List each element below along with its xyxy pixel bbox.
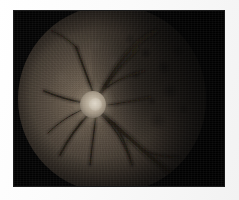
superior-fine-branch [102,71,144,91]
choroidal-mottling-texture [18,11,206,186]
temporal-fine-branch [108,97,150,105]
inferior-fine-branch [104,117,130,159]
inferior-temporal-arcade [96,109,176,177]
inferior-temporal-arcade-branch [114,123,132,165]
peripheral-branch-lower-right-shadow [144,151,180,157]
nerve-fibre-striations [18,11,206,186]
inferior-vessel-mid-shadow [90,115,96,165]
fundus-field [18,11,206,186]
inferior-nasal-vessel-shadow [60,113,90,155]
temporal-fine-branch-shadow [108,97,150,105]
superior-temporal-arcade-shadow [98,31,156,97]
inferior-temporal-arcade-shadow [96,109,176,177]
peripheral-branch-upper-left [52,31,78,49]
peripheral-branch-lower-right [144,151,180,157]
superior-fine-branch-shadow [102,71,144,91]
fundus-illumination-gradient [18,11,206,186]
vessel-paths-shadow [44,31,180,177]
superior-nasal-vessel-shadow [76,47,94,95]
nasal-fine-branch-shadow [48,109,84,133]
superior-temporal-arcade [98,31,156,97]
superior-arch-upper-shadow [100,49,138,95]
inferior-fine-branch-shadow [104,117,130,159]
optic-disc [80,91,106,118]
temporal-dark-region [92,11,206,161]
photographic-plate [14,11,224,186]
vessel-paths-main [44,31,180,177]
superior-nasal-vessel [76,47,94,95]
optic-cup [89,98,102,111]
inferior-temporal-arcade-branch-shadow [114,123,132,165]
inferior-vessel-mid [90,115,96,165]
inferior-nasal-vessel [60,113,90,155]
fundus-photograph-page [0,0,239,200]
peripheral-branch-upper-left-shadow [52,31,78,49]
nasal-fine-branch [48,109,84,133]
superior-arch-upper [100,49,138,95]
retinal-vasculature [18,11,206,186]
